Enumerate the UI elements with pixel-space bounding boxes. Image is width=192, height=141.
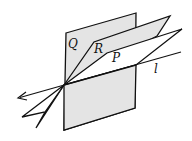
plane-p-lower xyxy=(22,85,64,117)
label-r: R xyxy=(93,42,103,56)
label-l: l xyxy=(154,62,158,76)
label-q: Q xyxy=(68,37,78,51)
planes-diagram: Q R P l xyxy=(0,0,192,141)
label-p: P xyxy=(111,51,121,65)
